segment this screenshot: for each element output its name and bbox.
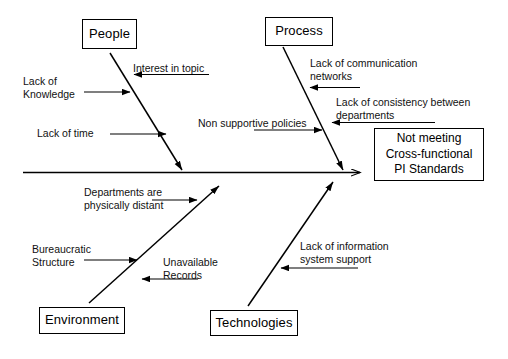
fishbone-diagram: People Process Environment Technologies … — [0, 0, 508, 359]
category-box-environment[interactable]: Environment — [39, 307, 125, 334]
cause-label-departments-are-physically-distant: Departments are physically distant — [84, 186, 163, 212]
effect-line-3: PI Standards — [394, 162, 463, 178]
cause-label-lack-of-communication-networks: Lack of communication networks — [310, 57, 417, 83]
cause-label-bureaucratic-structure: Bureaucratic Structure — [32, 243, 91, 269]
cause-label-lack-of-knowledge: Lack of Knowledge — [23, 75, 75, 101]
cause-label-lack-of-time: Lack of time — [37, 127, 94, 140]
effect-line-2: Cross-functional — [386, 147, 473, 163]
cause-label-lack-of-consistency-between-departments: Lack of consistency between departments — [336, 96, 470, 122]
cause-label-non-supportive-policies: Non supportive policies — [198, 117, 307, 130]
category-box-people[interactable]: People — [82, 19, 137, 49]
category-box-process[interactable]: Process — [265, 17, 333, 46]
category-label-environment: Environment — [45, 313, 119, 327]
category-label-process: Process — [275, 24, 323, 38]
cause-label-unavailable-records: Unavailable Records — [163, 256, 218, 282]
cause-label-lack-of-information-system-support: Lack of information system support — [300, 240, 389, 266]
category-label-people: People — [89, 27, 130, 41]
category-label-technologies: Technologies — [215, 316, 292, 330]
effect-line-1: Not meeting — [397, 131, 462, 147]
effect-box[interactable]: Not meeting Cross-functional PI Standard… — [374, 128, 484, 181]
cause-label-interest-in-topic: Interest in topic — [133, 62, 204, 75]
category-box-technologies[interactable]: Technologies — [210, 310, 298, 336]
